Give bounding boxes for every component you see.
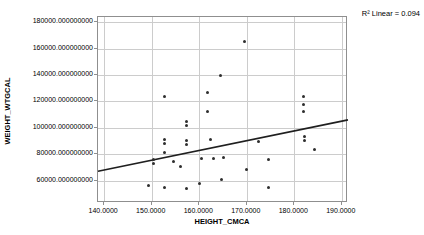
scatter-point bbox=[200, 157, 203, 160]
scatterplot-figure: R² Linear = 0.094 WEIGHT_WTGCAL 180000.0… bbox=[0, 0, 424, 235]
y-tick-label: 60000.000000000 bbox=[9, 175, 93, 185]
scatter-point bbox=[302, 95, 305, 98]
y-tick-mark bbox=[94, 127, 97, 128]
y-tick-mark bbox=[94, 48, 97, 49]
scatter-point bbox=[302, 103, 305, 106]
regression-line-layer bbox=[98, 17, 348, 203]
x-axis-title: HEIGHT_CMCA bbox=[97, 217, 347, 226]
x-tick-label: 190.0000 bbox=[311, 206, 371, 216]
y-tick-label: 160000.000000000 bbox=[9, 43, 93, 53]
scatter-point bbox=[267, 158, 270, 161]
x-tick-mark bbox=[293, 202, 294, 205]
scatter-point bbox=[222, 156, 225, 159]
y-tick-label: 120000.000000000 bbox=[9, 95, 93, 105]
x-tick-mark bbox=[341, 202, 342, 205]
scatter-point bbox=[163, 95, 166, 98]
regression-line bbox=[98, 120, 348, 171]
y-tick-mark bbox=[94, 180, 97, 181]
x-tick-mark bbox=[198, 202, 199, 205]
y-tick-mark bbox=[94, 21, 97, 22]
scatter-point bbox=[220, 178, 223, 181]
y-tick-mark bbox=[94, 100, 97, 101]
scatter-point bbox=[163, 142, 166, 145]
scatter-point bbox=[198, 182, 201, 185]
y-tick-label: 140000.000000000 bbox=[9, 69, 93, 79]
y-tick-label: 80000.000000000 bbox=[9, 148, 93, 158]
scatter-point bbox=[212, 157, 215, 160]
scatter-point bbox=[163, 138, 166, 141]
scatter-point bbox=[163, 186, 166, 189]
plot-area bbox=[97, 16, 347, 202]
scatter-point bbox=[257, 140, 260, 143]
x-tick-mark bbox=[246, 202, 247, 205]
r-squared-annotation: R² Linear = 0.094 bbox=[362, 9, 420, 18]
scatter-point bbox=[152, 162, 155, 165]
scatter-point bbox=[243, 40, 246, 43]
y-tick-mark bbox=[94, 74, 97, 75]
x-tick-mark bbox=[151, 202, 152, 205]
x-tick-mark bbox=[103, 202, 104, 205]
scatter-point bbox=[179, 165, 182, 168]
y-tick-label: 100000.000000000 bbox=[9, 122, 93, 132]
scatter-point bbox=[245, 168, 248, 171]
scatter-point bbox=[172, 160, 175, 163]
y-tick-label: 180000.000000000 bbox=[9, 16, 93, 26]
y-tick-mark bbox=[94, 153, 97, 154]
